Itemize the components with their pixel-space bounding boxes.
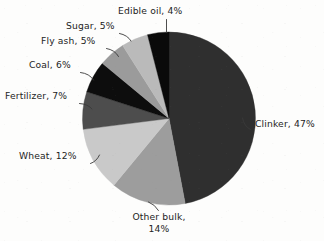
leader-line-sugar [120, 34, 132, 42]
pie-label-other-bulk-line1: Other bulk, [132, 211, 185, 222]
leader-line-coal [81, 73, 94, 81]
pie-label-fertilizer: Fertilizer, 7% [5, 90, 67, 102]
pie-chart-figure: Edible oil, 4% Sugar, 5% Fly ash, 5% Coa… [0, 0, 324, 241]
pie-label-other-bulk: Other bulk, 14% [128, 211, 190, 234]
pie-label-edible-oil: Edible oil, 4% [118, 5, 182, 17]
pie-slice-group [82, 32, 255, 205]
pie-label-wheat: Wheat, 12% [19, 150, 77, 162]
pie-label-sugar: Sugar, 5% [66, 20, 115, 32]
pie-label-other-bulk-line2: 14% [149, 223, 170, 234]
pie-label-fly-ash: Fly ash, 5% [41, 35, 96, 47]
pie-label-coal: Coal, 6% [29, 59, 71, 71]
pie-label-clinker: Clinker, 47% [255, 118, 315, 130]
